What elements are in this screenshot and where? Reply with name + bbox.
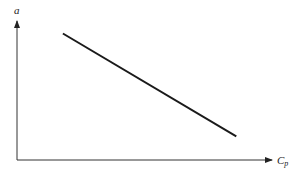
data-line <box>63 34 236 137</box>
diagram: a Cp <box>0 0 299 171</box>
x-axis-label: Cp <box>277 154 288 168</box>
y-axis-label: a <box>14 4 20 16</box>
